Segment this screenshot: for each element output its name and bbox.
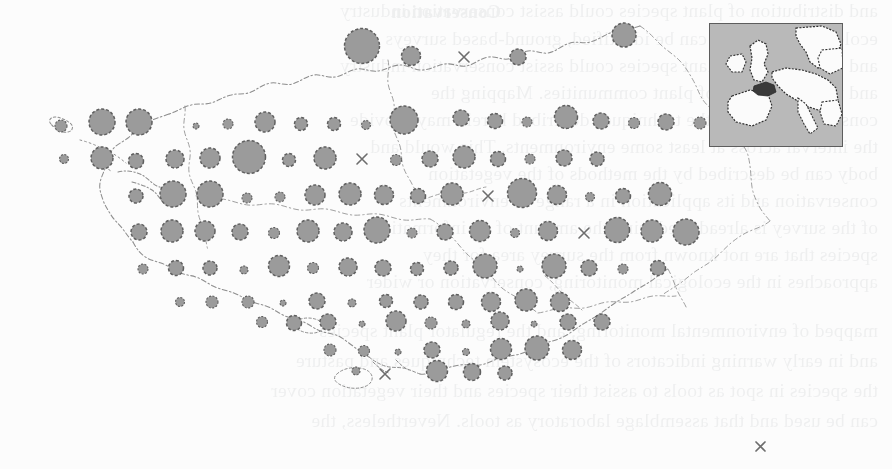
data-circle bbox=[510, 49, 526, 65]
data-circle bbox=[470, 221, 491, 242]
data-circle bbox=[517, 266, 523, 272]
data-circle bbox=[359, 346, 370, 357]
europe-inset-canvas bbox=[710, 24, 843, 147]
data-circle bbox=[673, 219, 699, 245]
data-circle bbox=[525, 336, 549, 360]
europe-locator-inset bbox=[709, 23, 843, 147]
data-circle bbox=[129, 189, 143, 203]
data-circle bbox=[618, 264, 628, 274]
absence-cross bbox=[459, 52, 469, 62]
data-circle bbox=[511, 229, 520, 238]
data-circle bbox=[280, 300, 286, 306]
data-circle bbox=[386, 311, 406, 331]
data-circle bbox=[287, 316, 302, 331]
data-circle bbox=[364, 217, 390, 243]
data-circle bbox=[563, 341, 582, 360]
data-circle bbox=[275, 192, 285, 202]
data-circle bbox=[203, 261, 217, 275]
data-circle bbox=[411, 263, 424, 276]
data-circle bbox=[464, 364, 481, 381]
data-circle bbox=[482, 293, 501, 312]
data-circle bbox=[491, 152, 506, 167]
data-circle bbox=[449, 295, 464, 310]
data-circle bbox=[176, 298, 185, 307]
isolated-cross-marker bbox=[755, 438, 766, 449]
data-circle bbox=[551, 293, 570, 312]
data-circle bbox=[314, 147, 336, 169]
scanned-page: Conservation ecological processes can be… bbox=[0, 0, 892, 469]
data-circle bbox=[283, 154, 296, 167]
data-circle bbox=[414, 295, 428, 309]
data-circle bbox=[586, 193, 595, 202]
symbol-group bbox=[55, 23, 706, 382]
data-circle bbox=[129, 154, 144, 169]
absence-cross bbox=[357, 154, 367, 164]
data-circle bbox=[581, 260, 597, 276]
data-circle bbox=[402, 47, 421, 66]
data-circle bbox=[166, 150, 184, 168]
data-circle bbox=[488, 114, 503, 129]
data-circle bbox=[560, 314, 576, 330]
data-circle bbox=[525, 154, 535, 164]
data-circle bbox=[320, 314, 336, 330]
data-circle bbox=[232, 224, 248, 240]
data-circle bbox=[498, 366, 512, 380]
data-circle bbox=[555, 106, 578, 129]
data-circle bbox=[425, 317, 437, 329]
data-circle bbox=[539, 222, 558, 241]
data-circle bbox=[491, 312, 509, 330]
data-circle bbox=[362, 121, 371, 130]
data-circle bbox=[339, 258, 357, 276]
absence-cross bbox=[380, 369, 390, 379]
lone-cross-glyph bbox=[755, 441, 766, 452]
data-circle bbox=[240, 266, 248, 274]
data-circle bbox=[391, 155, 402, 166]
data-circle bbox=[515, 289, 537, 311]
data-circle bbox=[309, 293, 325, 309]
data-circle bbox=[257, 317, 268, 328]
golfe-du-morbihan bbox=[369, 357, 420, 374]
boundary-mayenne bbox=[744, 147, 770, 221]
data-circle bbox=[195, 221, 215, 241]
data-circle bbox=[390, 106, 418, 134]
data-circle bbox=[269, 256, 290, 277]
data-circle bbox=[223, 119, 233, 129]
data-circle bbox=[522, 117, 532, 127]
data-circle bbox=[531, 321, 537, 327]
data-circle bbox=[295, 118, 308, 131]
data-circle bbox=[444, 261, 458, 275]
data-circle bbox=[160, 181, 186, 207]
data-circle bbox=[612, 23, 636, 47]
data-circle bbox=[91, 147, 113, 169]
data-circle bbox=[395, 349, 401, 355]
absence-cross bbox=[483, 191, 493, 201]
data-circle bbox=[55, 120, 67, 132]
data-circle bbox=[161, 220, 183, 242]
data-circle bbox=[694, 117, 706, 129]
data-circle bbox=[380, 295, 393, 308]
data-circle bbox=[407, 228, 417, 238]
data-circle bbox=[629, 118, 640, 129]
data-circle bbox=[508, 179, 537, 208]
data-circle bbox=[348, 299, 356, 307]
data-circle bbox=[453, 146, 475, 168]
data-circle bbox=[649, 183, 672, 206]
data-circle bbox=[339, 183, 361, 205]
data-circle bbox=[138, 264, 148, 274]
data-circle bbox=[197, 181, 223, 207]
data-circle bbox=[242, 296, 254, 308]
data-circle bbox=[328, 118, 341, 131]
data-circle bbox=[60, 155, 69, 164]
data-circle bbox=[308, 263, 319, 274]
data-circle bbox=[206, 296, 218, 308]
data-circle bbox=[422, 151, 438, 167]
data-circle bbox=[548, 186, 567, 205]
data-circle bbox=[594, 314, 610, 330]
data-circle bbox=[193, 123, 199, 129]
north-coastline bbox=[169, 26, 640, 114]
data-circle bbox=[491, 339, 512, 360]
absence-cross bbox=[579, 228, 589, 238]
data-circle bbox=[345, 29, 380, 64]
data-circle bbox=[131, 224, 147, 240]
data-circle bbox=[463, 349, 470, 356]
